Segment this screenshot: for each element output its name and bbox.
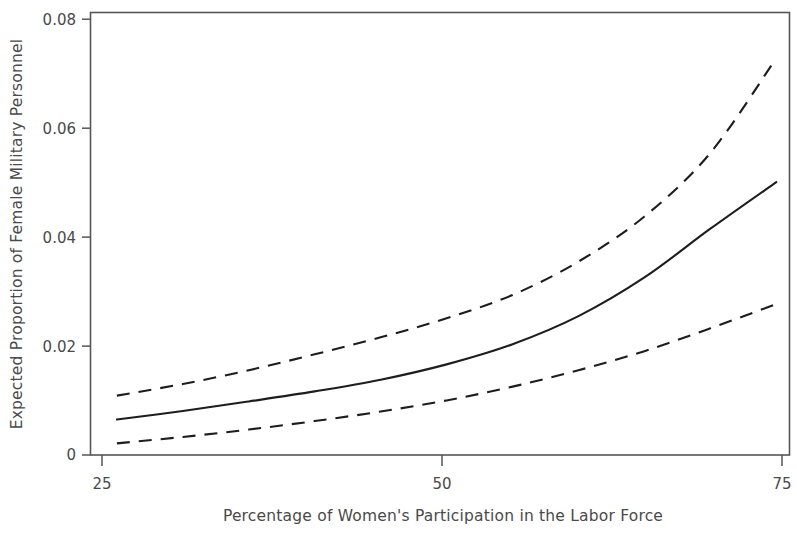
chart-figure: 0.08 0.06 0.04 0.02 0 25 50 75 Percentag… — [0, 0, 797, 533]
x-axis-title: Percentage of Women's Participation in t… — [223, 507, 663, 525]
data-curves — [117, 58, 776, 443]
y-tick-label-3: 0.06 — [43, 120, 76, 138]
y-tick-label-1: 0.02 — [43, 338, 76, 356]
x-tick-label-0: 25 — [92, 475, 111, 493]
y-axis-tick-labels: 0.08 0.06 0.04 0.02 0 — [43, 11, 76, 465]
x-axis-tick-labels: 25 50 75 — [92, 475, 791, 493]
y-axis-ticks — [82, 19, 91, 455]
x-axis-ticks — [102, 455, 782, 466]
x-tick-label-1: 50 — [432, 475, 451, 493]
series-line-2 — [117, 304, 776, 443]
line-chart-canvas: 0.08 0.06 0.04 0.02 0 25 50 75 Percentag… — [0, 0, 797, 533]
y-tick-label-2: 0.04 — [43, 229, 76, 247]
series-line-1 — [117, 182, 776, 419]
x-tick-label-2: 75 — [772, 475, 791, 493]
y-tick-label-0: 0 — [66, 446, 76, 464]
y-axis-title: Expected Proportion of Female Military P… — [8, 39, 26, 430]
plot-frame — [91, 13, 790, 456]
y-tick-label-4: 0.08 — [43, 11, 76, 29]
series-line-0 — [117, 58, 776, 396]
